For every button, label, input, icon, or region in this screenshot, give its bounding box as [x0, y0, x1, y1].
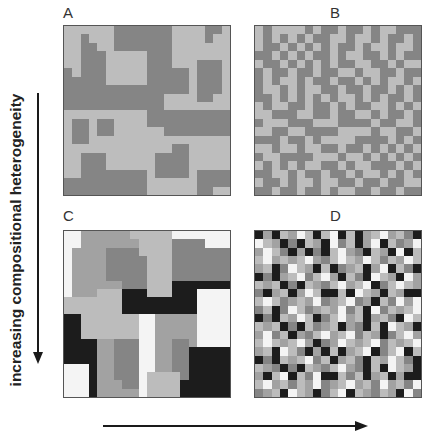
landscape-cell — [272, 110, 280, 118]
landscape-cell — [346, 289, 354, 297]
landscape-cell — [413, 356, 421, 364]
landscape-cell — [189, 119, 197, 127]
panel-c-label: C — [63, 208, 74, 223]
landscape-cell — [222, 231, 230, 239]
landscape-cell — [321, 322, 329, 330]
landscape-cell — [255, 43, 263, 51]
landscape-cell — [97, 68, 105, 76]
landscape-cell — [255, 161, 263, 169]
landscape-cell — [380, 347, 388, 355]
landscape-cell — [97, 364, 105, 372]
landscape-cell — [106, 273, 114, 281]
landscape-cell — [272, 153, 280, 161]
landscape-cell — [363, 322, 371, 330]
landscape-cell — [255, 178, 263, 186]
landscape-cell — [64, 161, 72, 169]
landscape-cell — [280, 34, 288, 42]
vertical-arrow-line — [37, 93, 39, 355]
landscape-cell — [263, 372, 271, 380]
landscape-cell — [321, 256, 329, 264]
landscape-cell — [114, 364, 122, 372]
landscape-cell — [305, 127, 313, 135]
landscape-cell — [396, 94, 404, 102]
landscape-cell — [97, 289, 105, 297]
landscape-cell — [155, 161, 163, 169]
landscape-cell — [106, 170, 114, 178]
landscape-cell — [155, 26, 163, 34]
landscape-cell — [272, 60, 280, 68]
landscape-cell — [139, 178, 147, 186]
landscape-cell — [130, 85, 138, 93]
landscape-cell — [346, 43, 354, 51]
landscape-cell — [313, 248, 321, 256]
landscape-cell — [89, 94, 97, 102]
landscape-cell — [72, 161, 80, 169]
landscape-cell — [155, 339, 163, 347]
landscape-cell — [155, 77, 163, 85]
landscape-cell — [222, 239, 230, 247]
landscape-cell — [330, 178, 338, 186]
landscape-cell — [388, 372, 396, 380]
landscape-cell — [355, 322, 363, 330]
landscape-cell — [346, 356, 354, 364]
landscape-cell — [313, 297, 321, 305]
landscape-cell — [64, 248, 72, 256]
landscape-cell — [147, 314, 155, 322]
landscape-cell — [139, 322, 147, 330]
landscape-cell — [130, 264, 138, 272]
landscape-cell — [355, 273, 363, 281]
landscape-cell — [64, 85, 72, 93]
landscape-cell — [213, 231, 221, 239]
landscape-cell — [180, 372, 188, 380]
landscape-cell — [288, 127, 296, 135]
landscape-cell — [81, 289, 89, 297]
landscape-cell — [89, 372, 97, 380]
landscape-cell — [263, 34, 271, 42]
landscape-cell — [313, 339, 321, 347]
landscape-cell — [155, 314, 163, 322]
landscape-cell — [338, 34, 346, 42]
landscape-cell — [380, 161, 388, 169]
landscape-cell — [396, 273, 404, 281]
landscape-cell — [106, 289, 114, 297]
landscape-cell — [222, 256, 230, 264]
landscape-cell — [305, 314, 313, 322]
landscape-cell — [213, 273, 221, 281]
landscape-cell — [114, 170, 122, 178]
landscape-cell — [305, 161, 313, 169]
landscape-cell — [72, 110, 80, 118]
landscape-cell — [97, 356, 105, 364]
landscape-cell — [371, 178, 379, 186]
landscape-cell — [81, 161, 89, 169]
landscape-cell — [205, 85, 213, 93]
landscape-cell — [114, 144, 122, 152]
landscape-cell — [388, 289, 396, 297]
landscape-cell — [404, 289, 412, 297]
landscape-cell — [272, 231, 280, 239]
landscape-cell — [197, 248, 205, 256]
landscape-cell — [380, 178, 388, 186]
landscape-cell — [180, 264, 188, 272]
landscape-cell — [363, 178, 371, 186]
landscape-cell — [338, 339, 346, 347]
landscape-cell — [89, 77, 97, 85]
landscape-cell — [404, 161, 412, 169]
landscape-cell — [72, 356, 80, 364]
landscape-cell — [222, 380, 230, 388]
landscape-cell — [139, 331, 147, 339]
landscape-cell — [346, 231, 354, 239]
landscape-cell — [222, 161, 230, 169]
landscape-cell — [396, 289, 404, 297]
landscape-cell — [346, 170, 354, 178]
landscape-cell — [139, 187, 147, 195]
landscape-cell — [330, 289, 338, 297]
landscape-cell — [288, 178, 296, 186]
landscape-cell — [189, 273, 197, 281]
landscape-cell — [189, 34, 197, 42]
landscape-cell — [346, 34, 354, 42]
landscape-cell — [321, 110, 329, 118]
landscape-cell — [363, 231, 371, 239]
landscape-cell — [130, 119, 138, 127]
landscape-cell — [263, 264, 271, 272]
landscape-cell — [122, 314, 130, 322]
